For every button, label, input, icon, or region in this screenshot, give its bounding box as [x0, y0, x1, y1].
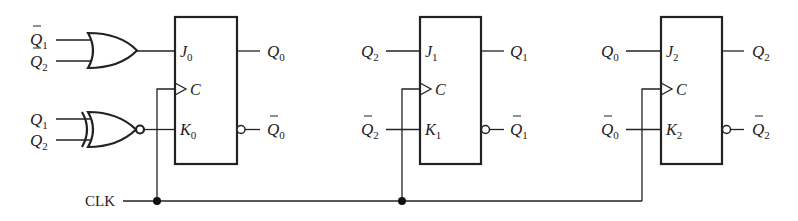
svg-text:Q2: Q2 [361, 120, 379, 141]
ff1-q-output-label: Q1 [510, 42, 528, 63]
svg-text:C: C [190, 81, 201, 98]
svg-text:Q2: Q2 [30, 52, 48, 73]
ff2-q-output-label: Q2 [752, 42, 770, 63]
ff0-q-output-label: Q0 [267, 42, 285, 63]
ff2-k-input-label: Q0 [601, 116, 619, 141]
xnor-input-2-label: Q2 [30, 131, 48, 152]
svg-text:Q1: Q1 [510, 120, 528, 141]
svg-text:Q2: Q2 [752, 120, 770, 141]
svg-text:Q2: Q2 [752, 42, 770, 63]
jk-flip-flop-2: J2 C K2 [626, 17, 744, 164]
clk-label: CLK [85, 193, 115, 209]
svg-text:Q0: Q0 [267, 120, 285, 141]
jk-flip-flop-0: J0 C K0 [175, 17, 260, 164]
svg-text:C: C [676, 81, 687, 98]
svg-text:Q1: Q1 [510, 42, 528, 63]
clock-junction-ff1 [398, 197, 406, 205]
ff1-k-input-label: Q2 [361, 116, 379, 141]
svg-text:Q0: Q0 [601, 42, 619, 63]
xnor-input-1-label: Q1 [30, 110, 48, 131]
ff2-j-input-label: Q0 [601, 42, 619, 63]
counter-circuit-diagram: Q1 Q2 Q1 Q2 J0 C K0 Q0 Q0 J1 [0, 0, 798, 221]
svg-text:C: C [435, 81, 446, 98]
svg-text:Q0: Q0 [601, 120, 619, 141]
or-input-1-label: Q1 [30, 26, 48, 51]
svg-text:Q1: Q1 [30, 110, 48, 131]
svg-text:Q0: Q0 [267, 42, 285, 63]
or-input-2-label: Q2 [30, 48, 48, 73]
svg-text:Q2: Q2 [361, 42, 379, 63]
jk-flip-flop-1: J1 C K1 [386, 17, 504, 164]
ff0-qbar-output-label: Q0 [267, 116, 285, 141]
svg-text:Q2: Q2 [30, 131, 48, 152]
ff1-qbar-output-label: Q1 [510, 116, 528, 141]
or-gate [56, 33, 175, 68]
clock-junction-ff0 [153, 197, 161, 205]
ff2-qbar-output-label: Q2 [752, 116, 770, 141]
ff1-j-input-label: Q2 [361, 42, 379, 63]
